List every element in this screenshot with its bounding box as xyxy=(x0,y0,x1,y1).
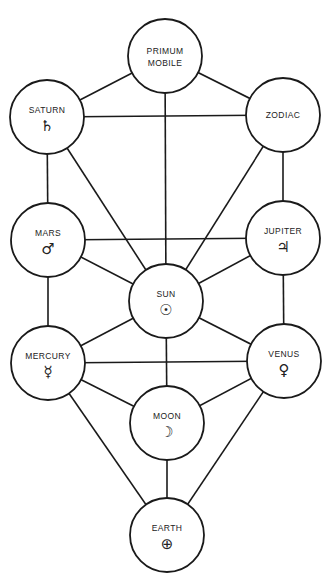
node-saturn: SATURN♄ xyxy=(10,80,84,154)
node-label: MOBILE xyxy=(148,58,183,68)
mercury-icon: ☿ xyxy=(43,363,52,381)
venus-icon: ♀ xyxy=(279,361,290,379)
node-sun: SUN☉ xyxy=(129,264,203,338)
node-zodiac: ZODIAC xyxy=(246,78,320,152)
mars-icon: ♂ xyxy=(41,240,54,258)
sun-icon: ☉ xyxy=(159,301,172,319)
node-label: PRIMUM xyxy=(147,46,184,56)
node-label: VENUS xyxy=(268,349,299,359)
node-label: MARS xyxy=(35,228,61,238)
tree-of-life-diagram: PRIMUMMOBILESATURN♄ZODIACMARS♂JUPITER♃SU… xyxy=(0,0,333,586)
node-label: SUN xyxy=(156,289,175,299)
node-jupiter: JUPITER♃ xyxy=(246,201,320,275)
node-label: ZODIAC xyxy=(266,110,301,120)
node-earth: EARTH⊕ xyxy=(130,498,204,572)
node-venus: VENUS♀ xyxy=(247,324,321,398)
node-label: EARTH xyxy=(152,523,183,533)
node-label: MERCURY xyxy=(25,351,71,361)
moon-icon: ☽ xyxy=(160,423,173,441)
node-primum-mobile: PRIMUMMOBILE xyxy=(128,19,202,93)
node-moon: MOON☽ xyxy=(130,386,204,460)
saturn-icon: ♄ xyxy=(40,117,53,135)
jupiter-icon: ♃ xyxy=(276,238,289,256)
node-label: MOON xyxy=(153,411,181,421)
node-mercury: MERCURY☿ xyxy=(11,326,85,400)
node-label: SATURN xyxy=(29,105,66,115)
node-mars: MARS♂ xyxy=(11,203,85,277)
node-label: JUPITER xyxy=(264,226,302,236)
earth-icon: ⊕ xyxy=(161,535,174,553)
node-circle xyxy=(128,19,202,93)
